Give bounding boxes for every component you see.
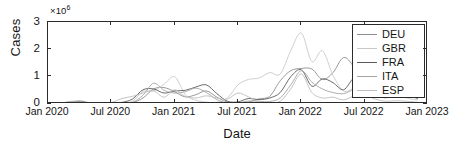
x-tick-mark-top-3 <box>237 21 238 25</box>
legend-label-deu: DEU <box>382 27 405 41</box>
y-tick-mark-1 <box>47 75 51 76</box>
x-tick-mark-top-4 <box>300 21 301 25</box>
legend-swatch-esp <box>357 90 377 91</box>
y-tick-mark-right-2 <box>423 48 427 49</box>
legend-item-gbr[interactable]: GBR <box>353 41 424 55</box>
y-tick-label-3: 3 <box>0 15 40 27</box>
x-tick-label-6: Jan 2023 <box>392 105 454 117</box>
y-tick-mark-3 <box>47 21 51 22</box>
x-tick-mark-top-5 <box>364 21 365 25</box>
legend-swatch-deu <box>357 34 377 35</box>
x-tick-mark-3 <box>237 99 238 103</box>
x-tick-label-4: Jan 2022 <box>265 105 335 117</box>
x-tick-label-0: Jan 2020 <box>12 105 82 117</box>
legend-label-esp: ESP <box>382 83 404 97</box>
y-tick-mark-right-3 <box>423 21 427 22</box>
x-axis-label: Date <box>47 126 427 141</box>
legend-swatch-fra <box>357 62 377 63</box>
legend-swatch-ita <box>357 76 377 77</box>
x-tick-label-1: Jul 2020 <box>75 105 145 117</box>
y-axis-exponent: ×106 <box>50 4 70 16</box>
y-axis-exponent-base: ×10 <box>50 5 66 16</box>
x-tick-mark-4 <box>300 99 301 103</box>
y-axis-label: Cases <box>8 3 23 73</box>
y-tick-label-2: 2 <box>0 42 40 54</box>
x-tick-label-5: Jul 2022 <box>329 105 399 117</box>
y-tick-mark-right-1 <box>423 75 427 76</box>
x-tick-mark-2 <box>174 99 175 103</box>
x-tick-mark-top-2 <box>174 21 175 25</box>
legend-label-gbr: GBR <box>382 41 406 55</box>
legend-item-fra[interactable]: FRA <box>353 55 424 69</box>
legend-item-esp[interactable]: ESP <box>353 83 424 97</box>
chart-figure: Cases ×106 0 1 2 3 Jan 2020Jul 2020Jan 2… <box>0 0 454 148</box>
x-tick-label-3: Jul 2021 <box>202 105 272 117</box>
y-tick-mark-2 <box>47 48 51 49</box>
y-tick-mark-right-0 <box>423 103 427 104</box>
legend-item-deu[interactable]: DEU <box>353 27 424 41</box>
x-tick-mark-5 <box>364 99 365 103</box>
y-tick-label-1: 1 <box>0 69 40 81</box>
legend-item-ita[interactable]: ITA <box>353 69 424 83</box>
legend-swatch-gbr <box>357 48 377 49</box>
x-tick-label-2: Jan 2021 <box>139 105 209 117</box>
x-tick-mark-1 <box>110 99 111 103</box>
y-tick-mark-0 <box>47 103 51 104</box>
y-axis-exponent-power: 6 <box>66 4 70 11</box>
chart-legend: DEUGBRFRAITAESP <box>352 24 425 98</box>
legend-label-fra: FRA <box>382 55 404 69</box>
legend-label-ita: ITA <box>382 69 398 83</box>
x-tick-mark-top-1 <box>110 21 111 25</box>
